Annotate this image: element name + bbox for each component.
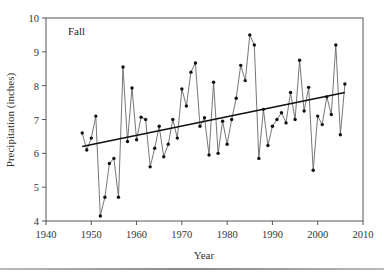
data-point-marker [298,59,301,62]
data-point-marker [330,113,333,116]
data-point-marker [144,118,147,121]
data-point-marker [311,169,314,172]
y-tick-label: 6 [34,148,39,159]
data-point-marker [266,144,269,147]
data-point-marker [216,152,219,155]
data-point-marker [171,118,174,121]
data-point-marker [207,153,210,156]
panel-label: Fall [68,25,85,37]
data-point-marker [334,43,337,46]
data-point-marker [198,125,201,128]
data-point-marker [257,157,260,160]
data-point-marker [307,86,310,89]
data-point-marker [253,43,256,46]
precipitation-chart: 45678910 1940195019601970198019902000201… [0,0,384,268]
data-point-marker [321,123,324,126]
data-point-marker [280,111,283,114]
data-point-marker [203,116,206,119]
data-point-marker [126,140,129,143]
x-axis-title: Year [194,249,215,261]
data-point-marker [316,114,319,117]
data-point-marker [221,119,224,122]
data-point-marker [189,70,192,73]
x-tick-label: 1950 [81,229,102,240]
data-point-marker [185,104,188,107]
y-tick-label: 5 [34,182,39,193]
series-polyline [82,35,345,216]
data-point-marker [162,155,165,158]
data-point-marker [85,148,88,151]
y-tick-label: 7 [34,115,39,126]
data-point-marker [117,196,120,199]
data-point-marker [108,162,111,165]
data-point-marker [235,96,238,99]
y-axis: 45678910 [29,13,47,227]
data-point-marker [239,64,242,67]
data-point-marker [139,115,142,118]
x-tick-label: 1980 [217,229,238,240]
data-point-marker [135,138,138,141]
data-point-marker [148,165,151,168]
data-point-marker [212,81,215,84]
x-tick-label: 1970 [171,229,192,240]
data-point-marker [343,82,346,85]
bottom-divider [0,268,384,270]
data-point-marker [130,86,133,89]
data-point-marker [271,125,274,128]
data-point-marker [167,142,170,145]
data-point-marker [230,118,233,121]
y-tick-label: 9 [34,47,39,58]
x-tick-label: 2010 [353,229,374,240]
x-tick-label: 1960 [126,229,147,240]
data-point-marker [302,109,305,112]
data-point-marker [180,87,183,90]
data-point-marker [194,61,197,64]
data-point-marker [275,118,278,121]
data-point-marker [103,196,106,199]
data-point-marker [99,214,102,217]
data-point-marker [158,125,161,128]
data-point-marker [244,79,247,82]
data-point-marker [90,136,93,139]
data-point-marker [121,65,124,68]
data-point-marker [176,136,179,139]
data-point-marker [339,133,342,136]
data-point-marker [81,131,84,134]
x-tick-label: 1940 [36,229,57,240]
data-point-marker [293,118,296,121]
data-point-marker [289,91,292,94]
data-point-marker [225,142,228,145]
y-axis-title: Precipitation (inches) [4,72,17,167]
y-tick-label: 4 [34,216,40,227]
y-tick-label: 10 [29,13,40,24]
data-series [81,33,347,217]
data-point-marker [153,147,156,150]
x-tick-label: 2000 [307,229,328,240]
x-tick-label: 1990 [262,229,283,240]
data-point-marker [94,114,97,117]
y-tick-label: 8 [34,81,39,92]
x-axis: 19401950196019701980199020002010 [36,221,374,240]
data-point-marker [112,157,115,160]
data-point-marker [284,121,287,124]
data-point-marker [248,33,251,36]
